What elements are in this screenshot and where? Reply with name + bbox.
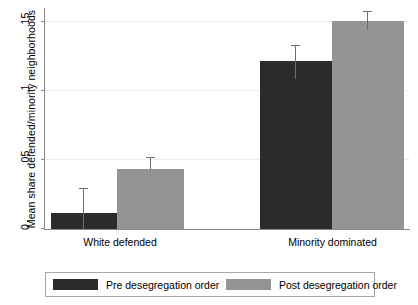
errorbar-white-defended-pre <box>83 188 84 229</box>
x-category-label-minority-dominated: Minority dominated <box>260 236 405 248</box>
legend-label-post: Post desegregation order <box>279 279 397 291</box>
errorbar-minority-dominated-post <box>367 11 368 30</box>
legend-label-pre: Pre desegregation order <box>106 279 219 291</box>
bar-minority-dominated-pre <box>260 61 332 229</box>
bar-chart-figure: Mean share defended/minority neighborhoo… <box>0 0 418 305</box>
x-category-label-white-defended: White defended <box>50 236 190 248</box>
y-tick-label-0.05: .05 <box>19 145 31 171</box>
legend-swatch-post-icon <box>226 279 271 290</box>
y-tickmark-0 <box>41 228 45 229</box>
legend-swatch-pre-icon <box>53 279 98 290</box>
y-tickmark-0.05 <box>41 159 45 160</box>
y-tick-label-0: 0 <box>19 214 31 240</box>
y-axis-tick-labels: .15 .1 .05 0 <box>8 0 38 250</box>
y-tick-label-0.15: .15 <box>19 7 31 33</box>
plot-area <box>44 8 410 230</box>
errorbar-minority-dominated-pre <box>295 45 296 79</box>
y-tick-label-0.1: .1 <box>19 76 31 102</box>
bar-white-defended-pre <box>51 213 117 229</box>
legend: Pre desegregation order Post desegregati… <box>45 272 375 297</box>
bar-minority-dominated-post <box>332 21 404 229</box>
errorbar-white-defended-post <box>150 157 151 169</box>
bar-white-defended-post <box>117 169 184 229</box>
errorbar-cap-white-defended-post-top <box>146 157 155 158</box>
errorbar-cap-minority-dominated-pre-top <box>291 45 300 46</box>
legend-entry-post: Post desegregation order <box>226 273 397 296</box>
errorbar-cap-white-defended-pre-top <box>79 188 88 189</box>
legend-entry-pre: Pre desegregation order <box>53 273 219 296</box>
y-tickmark-0.15 <box>41 21 45 22</box>
errorbar-cap-minority-dominated-post-top <box>363 11 372 12</box>
y-tickmark-0.1 <box>41 90 45 91</box>
